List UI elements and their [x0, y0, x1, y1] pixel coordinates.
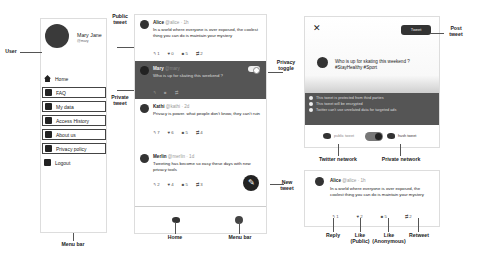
logout-icon	[44, 159, 51, 166]
home-icon	[44, 75, 51, 82]
like-anonymous-button[interactable]: ■ 5	[182, 130, 188, 135]
bottom-nav	[135, 206, 266, 233]
tweet-handle: @merlin	[168, 154, 185, 159]
tweet-text: In a world where everyone is over expose…	[330, 186, 430, 197]
reply-button[interactable]: ↰ 1	[153, 51, 160, 56]
info-item: Twitter can't use unrelated data for tar…	[309, 108, 437, 112]
reply-button[interactable]: ↰ 2	[153, 182, 160, 187]
avatar	[140, 154, 149, 163]
tweet-public[interactable]: Kathi @kathi · 2d Privacy is power. what…	[135, 99, 266, 149]
tweet-detail[interactable]: Alice @alice · 1h In a world where every…	[304, 170, 440, 227]
avatar	[317, 57, 328, 68]
callout-private-network: Private network	[374, 157, 428, 163]
twitter-bird-icon	[323, 133, 331, 139]
avatar	[140, 66, 149, 75]
callout-line	[333, 218, 334, 232]
info-item: This tweet will be encrypted	[309, 102, 437, 106]
tweet-actions: ↰ ■ ⇄	[153, 90, 178, 95]
post-tweet-button[interactable]: Tweet	[401, 25, 431, 35]
retweet-button[interactable]: ⇄ 2	[196, 51, 203, 56]
new-tweet-button[interactable]: ✎	[243, 175, 259, 191]
callout-line	[117, 90, 134, 91]
tweet-author: Alice	[153, 20, 164, 25]
like-anonymous-button[interactable]: ■ 5	[381, 214, 387, 219]
like-public-button[interactable]: ♥ 6	[168, 130, 174, 135]
like-public-button[interactable]: ♥ 4	[168, 182, 174, 187]
close-icon[interactable]: ✕	[313, 23, 321, 33]
info-item: This tweet is protected from third parti…	[309, 96, 437, 100]
network-toggle[interactable]	[365, 132, 383, 141]
retweet-button[interactable]: ⇄ 2	[405, 214, 412, 219]
user-avatar[interactable]	[45, 24, 69, 48]
network-selector: public tweet hush tweet	[305, 125, 440, 148]
tweet-time: 1d	[189, 154, 194, 159]
tweet-text: Privacy is power. what people don't know…	[153, 111, 261, 117]
menu-item-home[interactable]: Home	[42, 73, 106, 84]
callout-line	[20, 52, 42, 53]
tweet-private[interactable]: Mary @mary Who is up for skating this we…	[135, 61, 266, 99]
avatar	[140, 20, 149, 29]
tweet-feed[interactable]: Alice @alice · 1h In a world where every…	[134, 14, 267, 234]
callout-new-tweet: New tweet	[276, 180, 298, 192]
callout-line	[418, 218, 419, 232]
reply-button[interactable]: ↰	[153, 90, 156, 95]
menu-item-my-data[interactable]: My data	[42, 101, 106, 112]
callout-post-tweet: Post tweet	[444, 26, 468, 38]
people-icon	[45, 131, 52, 138]
data-icon	[45, 103, 52, 110]
public-tweet-label: public tweet	[334, 134, 354, 138]
callout-private-tweet: Private tweet	[106, 95, 134, 107]
tweet-author: Kathi	[153, 104, 164, 109]
tweet-time: 1h	[360, 178, 365, 183]
like-anonymous-button[interactable]: ■ 5	[182, 51, 188, 56]
faq-icon	[45, 89, 52, 96]
history-icon	[45, 117, 52, 124]
menu-item-logout[interactable]: Logout	[42, 157, 106, 168]
tweet-text: Tweeting has become so easy these days w…	[153, 161, 261, 172]
avatar	[315, 177, 324, 186]
menu-item-label: FAQ	[56, 90, 66, 96]
compose-textarea[interactable]: Who is up for skating this weekend ? #St…	[335, 59, 410, 71]
callout-line	[360, 218, 361, 232]
tweet-time: 1h	[183, 20, 188, 25]
tweet-actions: ↰ 7 ♥ 6 ■ 5 ⇄ 4	[153, 130, 203, 135]
hush-tweet-label: hush tweet	[398, 134, 416, 138]
retweet-button[interactable]: ⇄ 4	[196, 130, 203, 135]
tweet-actions: ↰ 2 ♥ 4 ■ 5 ⇄ 3	[153, 182, 203, 187]
callout-user: User	[2, 49, 20, 55]
like-anonymous-button[interactable]: ■	[164, 90, 167, 95]
tweet-text: Who is up for skating this weekend ?	[153, 73, 261, 79]
tweet-actions: ↰ 1 ♥ 2 ■ 5 ⇄ 2	[332, 214, 412, 219]
callout-retweet: Retweet	[404, 233, 434, 239]
reply-button[interactable]: ↰ 7	[153, 130, 160, 135]
like-public-button[interactable]: ♥ 0	[168, 51, 174, 56]
callout-home: Home	[160, 235, 190, 241]
callout-line	[175, 222, 176, 234]
tweet-composer: ✕ Tweet Who is up for skating this weeke…	[304, 16, 440, 148]
callout-reply: Reply	[320, 233, 346, 239]
tweet-author: Alice	[330, 178, 341, 183]
hush-bird-icon	[387, 133, 395, 139]
menu-item-privacy-policy[interactable]: Privacy policy	[42, 143, 106, 154]
callout-line	[388, 218, 389, 232]
tweet-author: Merlin	[153, 154, 167, 159]
tweet-public[interactable]: Alice @alice · 1h In a world where every…	[135, 15, 266, 61]
retweet-button[interactable]: ⇄ 3	[196, 182, 203, 187]
menu-item-about-us[interactable]: About us	[42, 129, 106, 140]
side-menu: Mary Jane @mary Home FAQ My data Access …	[40, 18, 107, 233]
callout-line	[338, 144, 339, 156]
tweet-handle: @kathi	[166, 104, 180, 109]
privacy-toggle[interactable]	[248, 66, 260, 72]
menu-item-access-history[interactable]: Access History	[42, 115, 106, 126]
callout-line	[430, 33, 444, 34]
user-handle: @mary	[77, 39, 89, 43]
callout-line	[117, 47, 134, 48]
home-bird-icon[interactable]	[172, 217, 180, 223]
retweet-button[interactable]: ⇄	[175, 90, 178, 95]
menu-item-faq[interactable]: FAQ	[42, 87, 106, 98]
menu-item-label: My data	[56, 104, 74, 110]
like-anonymous-button[interactable]: ■ 5	[182, 182, 188, 187]
avatar	[140, 104, 149, 113]
user-name: Mary Jane	[77, 32, 102, 38]
callout-twitter-network: Twitter network	[310, 157, 366, 163]
